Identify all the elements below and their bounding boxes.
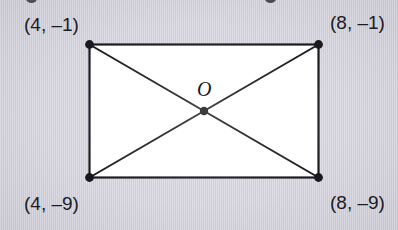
center-point-label: O: [197, 79, 211, 99]
vertex-dot-bottom-left: [85, 173, 94, 182]
vertex-dot-top-right: [314, 40, 323, 49]
vertex-dot-bottom-right: [314, 173, 323, 182]
coordinate-label-top-right: (8, –1): [330, 13, 385, 32]
coordinate-label-top-left: (4, –1): [24, 15, 79, 34]
figure-canvas: (4, –1) (8, –1) (4, –9) (8, –9) O: [0, 0, 398, 230]
vertex-dot-center-intersection: [200, 107, 208, 115]
coordinate-label-bottom-left: (4, –9): [24, 194, 79, 213]
vertex-dot-top-left: [85, 40, 94, 49]
coordinate-label-bottom-right: (8, –9): [330, 193, 385, 212]
